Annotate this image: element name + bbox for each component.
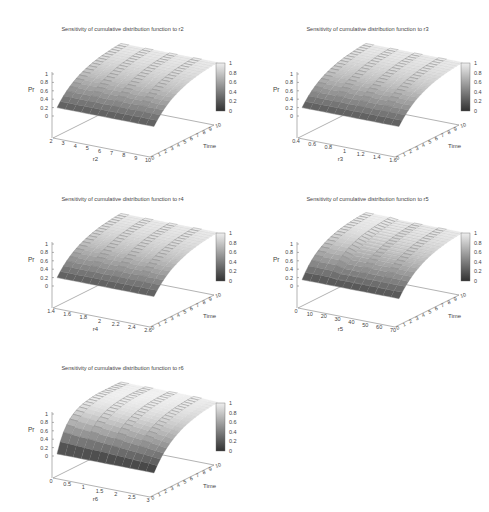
svg-text:2: 2 bbox=[49, 138, 52, 144]
colorbar bbox=[461, 63, 470, 111]
svg-text:0: 0 bbox=[49, 478, 52, 484]
z-axis-ticks: 00.20.40.60.81 bbox=[40, 411, 48, 459]
svg-text:7: 7 bbox=[195, 472, 200, 479]
svg-text:0.4: 0.4 bbox=[285, 96, 293, 102]
svg-text:0.6: 0.6 bbox=[474, 79, 482, 85]
svg-text:9: 9 bbox=[453, 295, 458, 302]
svg-text:10: 10 bbox=[307, 311, 313, 317]
svg-text:10: 10 bbox=[145, 157, 151, 163]
svg-text:0.2: 0.2 bbox=[229, 98, 237, 104]
svg-text:6: 6 bbox=[189, 305, 194, 312]
svg-text:3: 3 bbox=[414, 315, 419, 322]
z-axis-label: Pr bbox=[28, 426, 35, 433]
svg-text:0.8: 0.8 bbox=[229, 240, 237, 246]
svg-text:4: 4 bbox=[176, 141, 181, 148]
colorbar-ticks: 00.20.40.60.81 bbox=[474, 230, 482, 284]
time-axis-label: Time bbox=[203, 483, 217, 489]
svg-text:5: 5 bbox=[182, 138, 187, 145]
svg-text:10: 10 bbox=[459, 121, 467, 129]
svg-text:5: 5 bbox=[86, 145, 89, 151]
svg-text:1.5: 1.5 bbox=[96, 488, 104, 494]
x-axis-ticks: 2345678910 bbox=[49, 138, 151, 163]
surface-plot: 00.20.40.60.81Pr1.41.61.822.22.42.6r4012… bbox=[0, 170, 245, 340]
svg-text:0.2: 0.2 bbox=[40, 105, 48, 111]
x-axis-ticks: 00.511.522.53 bbox=[49, 478, 149, 503]
svg-text:0: 0 bbox=[474, 108, 477, 114]
svg-text:0.8: 0.8 bbox=[40, 419, 48, 425]
svg-text:1: 1 bbox=[229, 230, 232, 236]
svg-text:50: 50 bbox=[362, 322, 368, 328]
x-axis-label: r6 bbox=[93, 496, 99, 502]
surface-plot: 00.20.40.60.81Pr010203040506070r50123456… bbox=[245, 170, 489, 340]
svg-text:3: 3 bbox=[169, 315, 174, 322]
svg-text:5: 5 bbox=[182, 308, 187, 315]
svg-text:0: 0 bbox=[294, 308, 297, 314]
svg-text:1: 1 bbox=[45, 411, 48, 417]
svg-text:0: 0 bbox=[290, 283, 293, 289]
svg-text:7: 7 bbox=[195, 302, 200, 309]
svg-text:1: 1 bbox=[474, 60, 477, 66]
svg-text:7: 7 bbox=[440, 302, 445, 309]
svg-text:1.6: 1.6 bbox=[63, 311, 71, 317]
svg-text:5: 5 bbox=[182, 478, 187, 485]
svg-text:3: 3 bbox=[169, 485, 174, 492]
svg-text:8: 8 bbox=[446, 299, 451, 306]
x-axis-label: r2 bbox=[93, 156, 99, 162]
svg-text:7: 7 bbox=[440, 132, 445, 139]
svg-text:0.8: 0.8 bbox=[474, 70, 482, 76]
x-axis-label: r3 bbox=[338, 156, 344, 162]
svg-text:1.2: 1.2 bbox=[357, 151, 365, 157]
colorbar bbox=[216, 403, 225, 451]
svg-text:10: 10 bbox=[214, 121, 222, 129]
plot-panel-r2: Sensitivity of cumulative distribution f… bbox=[0, 0, 245, 170]
svg-text:4: 4 bbox=[176, 311, 181, 318]
svg-text:0.4: 0.4 bbox=[285, 266, 293, 272]
svg-text:0.6: 0.6 bbox=[229, 419, 237, 425]
svg-text:0.8: 0.8 bbox=[325, 144, 333, 150]
z-axis-label: Pr bbox=[28, 86, 35, 93]
svg-text:8: 8 bbox=[201, 129, 206, 136]
svg-text:0.6: 0.6 bbox=[40, 88, 48, 94]
svg-text:5: 5 bbox=[427, 308, 432, 315]
time-axis-ticks: 012345678910 bbox=[395, 121, 467, 161]
svg-text:6: 6 bbox=[98, 148, 101, 154]
svg-text:0.4: 0.4 bbox=[40, 96, 48, 102]
svg-text:4: 4 bbox=[74, 143, 77, 149]
time-axis-ticks: 012345678910 bbox=[150, 291, 222, 331]
svg-text:0.6: 0.6 bbox=[229, 249, 237, 255]
time-axis-label: Time bbox=[203, 143, 217, 149]
svg-text:8: 8 bbox=[122, 152, 125, 158]
plot-panel-r3: Sensitivity of cumulative distribution f… bbox=[245, 0, 489, 170]
svg-text:1: 1 bbox=[343, 148, 346, 154]
svg-text:10: 10 bbox=[214, 461, 222, 469]
svg-text:0: 0 bbox=[395, 154, 400, 161]
z-axis-label: Pr bbox=[28, 256, 35, 263]
surface-plot: 00.20.40.60.81Pr0.40.60.811.21.41.6r3012… bbox=[245, 0, 489, 170]
svg-text:5: 5 bbox=[427, 138, 432, 145]
surface-mesh bbox=[302, 213, 463, 299]
svg-text:0.2: 0.2 bbox=[474, 98, 482, 104]
svg-text:2.2: 2.2 bbox=[112, 321, 120, 327]
svg-text:7: 7 bbox=[110, 150, 113, 156]
svg-text:2: 2 bbox=[408, 148, 413, 155]
svg-text:0.4: 0.4 bbox=[292, 138, 300, 144]
svg-text:4: 4 bbox=[421, 311, 426, 318]
colorbar-ticks: 00.20.40.60.81 bbox=[229, 230, 237, 284]
svg-text:0: 0 bbox=[150, 494, 155, 501]
svg-text:0.4: 0.4 bbox=[40, 266, 48, 272]
svg-text:4: 4 bbox=[176, 481, 181, 488]
svg-text:2: 2 bbox=[114, 491, 117, 497]
time-axis-ticks: 012345678910 bbox=[150, 121, 222, 161]
svg-text:0.2: 0.2 bbox=[229, 438, 237, 444]
svg-text:1: 1 bbox=[402, 151, 407, 158]
svg-text:3: 3 bbox=[169, 145, 174, 152]
svg-text:0.4: 0.4 bbox=[229, 89, 237, 95]
x-axis-ticks: 1.41.61.822.22.42.6 bbox=[47, 308, 152, 333]
svg-text:1: 1 bbox=[290, 241, 293, 247]
time-axis-ticks: 012345678910 bbox=[150, 461, 222, 501]
svg-text:3: 3 bbox=[146, 497, 149, 503]
svg-text:1: 1 bbox=[82, 484, 85, 490]
plot-panel-r4: Sensitivity of cumulative distribution f… bbox=[0, 170, 245, 340]
svg-text:9: 9 bbox=[453, 125, 458, 132]
svg-text:8: 8 bbox=[446, 129, 451, 136]
